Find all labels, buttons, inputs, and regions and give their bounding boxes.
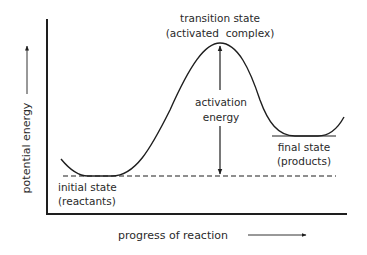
products-label: (products) bbox=[277, 155, 331, 167]
initial-state-label: initial state bbox=[58, 181, 117, 193]
activated-complex-label: (activated complex) bbox=[166, 27, 275, 39]
transition-state-label: transition state bbox=[180, 12, 260, 24]
energy-diagram: potential energy progress of reaction tr… bbox=[0, 0, 367, 255]
activation-energy-label-2: energy bbox=[203, 111, 240, 123]
reactants-label: (reactants) bbox=[58, 195, 116, 207]
y-axis-label: potential energy bbox=[20, 102, 33, 193]
final-state-label: final state bbox=[278, 141, 331, 153]
activation-energy-label: activation bbox=[195, 96, 247, 108]
x-axis-label: progress of reaction bbox=[118, 229, 228, 242]
